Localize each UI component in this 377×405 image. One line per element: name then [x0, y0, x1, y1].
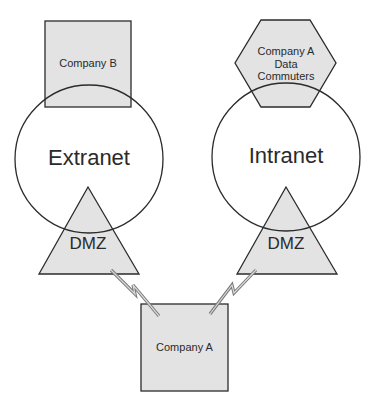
company-a-label: Company A	[141, 341, 228, 354]
extranet-label: Extranet	[15, 145, 163, 170]
dmz-left-node	[39, 187, 139, 274]
company-a-data-commuters-label: Company A Data Commuters	[240, 45, 332, 83]
label-line-3: Commuters	[240, 70, 332, 83]
intranet-label: Intranet	[212, 143, 360, 168]
label-line-2: Data	[240, 58, 332, 71]
dmz-left-label: DMZ	[58, 234, 118, 254]
label-line-1: Company A	[240, 45, 332, 58]
lightning-link-left	[111, 270, 159, 316]
dmz-right-label: DMZ	[256, 234, 316, 254]
lightning-link-right	[210, 270, 256, 314]
company-b-label: Company B	[45, 57, 131, 70]
